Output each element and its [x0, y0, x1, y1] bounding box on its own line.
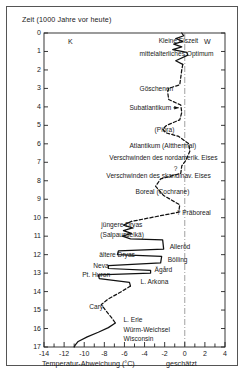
x-tick-label--14: -14 — [35, 350, 53, 357]
y-tick-label-5: 5 — [31, 121, 41, 128]
y-tick-label-3: 3 — [31, 84, 41, 91]
annotation-boreal-cochrane: Boreal (Cochrane) — [136, 188, 190, 196]
corner-label-warm: W — [204, 38, 211, 45]
climate-chart-figure: Zeit (1000 Jahre vor heute) K W Temperat… — [0, 0, 246, 376]
y-tick-label-12: 12 — [31, 251, 41, 258]
y-tick-label-15: 15 — [31, 306, 41, 313]
annotation-atlantikum-altthermal: Atlantikum (Altthermal) — [129, 142, 196, 150]
x-axis-note: geschätzt — [166, 359, 197, 368]
annotation-cary: Cary — [89, 303, 103, 311]
corner-label-cold: K — [68, 38, 73, 45]
x-axis-title: Temperatur-Abweichung (°C) — [42, 359, 135, 368]
y-tick-label-17: 17 — [31, 343, 41, 350]
x-tick-label--4: -4 — [136, 350, 154, 357]
y-tick-label-8: 8 — [31, 177, 41, 184]
annotation-salpausselka: (Salpausselkä) — [100, 231, 144, 239]
annotation-alleroed: Alleröd — [170, 243, 191, 251]
annotation-praeboreal: ? Präboreal — [177, 209, 211, 217]
x-tick-label-4: 4 — [216, 350, 234, 357]
annotation-aagaard: Ägård — [155, 266, 173, 274]
y-tick-label-14: 14 — [31, 288, 41, 295]
y-tick-label-13: 13 — [31, 269, 41, 276]
y-tick-label-10: 10 — [31, 214, 41, 221]
annotation-goeschenen: Göschenen — [140, 85, 174, 93]
y-tick-label-2: 2 — [31, 66, 41, 73]
annotation-wisconsin: Wisconsin — [123, 335, 153, 343]
annotation-aeltere-dryas: ältere Dryas — [99, 251, 135, 259]
x-tick-label--12: -12 — [55, 350, 73, 357]
annotation-verschwinden-nordamerik-eis: Verschwinden des nordamerik. Eises — [109, 154, 217, 162]
annotation-kleine-eiszeit: Kleine Eiszeit — [159, 37, 199, 45]
y-tick-label-7: 7 — [31, 158, 41, 165]
annotation-pt-huron: Pt. Huron — [82, 271, 110, 279]
series-path-4 — [74, 323, 115, 347]
y-tick-label-9: 9 — [31, 195, 41, 202]
annotation-wuerm-weichsel: Würm-Weichsel — [123, 326, 169, 334]
x-tick-label--6: -6 — [115, 350, 133, 357]
x-tick-label--8: -8 — [95, 350, 113, 357]
y-tick-label-1: 1 — [31, 47, 41, 54]
x-tick-label-0: 0 — [176, 350, 194, 357]
annotation-juengere-dryas: jüngere Dryas — [101, 221, 142, 229]
plot-frame — [44, 33, 225, 347]
x-tick-label--2: -2 — [156, 350, 174, 357]
annotation-piora: (Piora) — [155, 126, 175, 134]
annotation-subatlantikum: Subatlantikum — [129, 104, 171, 112]
annotation-boelling: Bölling — [168, 256, 188, 264]
annotation-l-arkona: L. Arkona — [141, 278, 169, 286]
annotation-neva: Neva — [93, 262, 108, 270]
y-tick-label-11: 11 — [31, 232, 41, 239]
x-tick-label-2: 2 — [196, 350, 214, 357]
annotation-l-erie: L. Erie — [123, 316, 142, 324]
annotation-mittelalterliches-optimum: mittelalterliches Optimum — [140, 50, 214, 58]
y-tick-label-6: 6 — [31, 140, 41, 147]
x-tick-label--10: -10 — [75, 350, 93, 357]
annotation-verschwinden-skandinav-eis: Verschwinden des skandinav. Eises — [106, 172, 210, 180]
annotation-uncertainty-mark: ? — [174, 165, 178, 173]
y-tick-label-16: 16 — [31, 325, 41, 332]
y-tick-label-0: 0 — [31, 29, 41, 36]
y-tick-label-4: 4 — [31, 103, 41, 110]
